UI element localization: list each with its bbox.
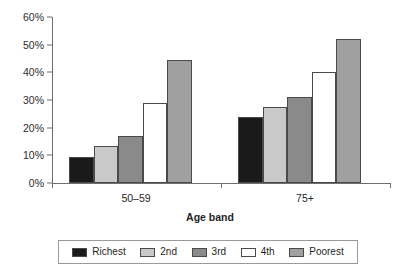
y-tick-label: 40% [8,67,44,78]
x-tick-mark [390,183,391,188]
legend-swatch-richest [72,248,87,257]
legend-label: Poorest [309,247,343,257]
legend-label: Richest [92,247,125,257]
y-tick-label: 60% [8,12,44,23]
y-tick-label: 20% [8,122,44,133]
legend-label: 3rd [212,247,226,257]
x-tick-mark [52,183,53,188]
bars-layer [52,17,390,183]
bar-75+-poorest [336,39,361,183]
plot-area: 0% 10% 20% 30% 40% 50% 60% 50–59 75+ [0,0,420,232]
y-axis-tick-labels: 0% 10% 20% 30% 40% 50% 60% [8,0,44,232]
x-tick-mark [221,183,222,188]
legend-swatch-2nd [140,248,155,257]
y-tick-label: 30% [8,95,44,106]
bar-50-59-3rd [118,136,143,183]
bar-50-59-poorest [167,60,192,183]
legend-swatch-3rd [192,248,207,257]
legend-swatch-poorest [289,248,304,257]
legend-item-4th[interactable]: 4th [241,247,275,257]
legend: Richest2nd3rd4thPoorest [58,240,358,264]
x-group-label-1: 75+ [296,192,314,204]
x-axis-title: Age band [0,211,420,223]
legend-swatch-4th [241,248,256,257]
bar-75+-2nd [263,107,288,183]
legend-label: 4th [261,247,275,257]
legend-item-richest[interactable]: Richest [72,247,125,257]
bar-75+-4th [312,72,337,183]
bar-75+-richest [238,117,263,183]
y-tick-label: 10% [8,150,44,161]
y-tick-label: 0% [8,178,44,189]
x-group-label-0: 50–59 [121,192,150,204]
y-tick-label: 50% [8,39,44,50]
bar-50-59-4th [143,103,168,183]
bar-50-59-richest [69,157,94,183]
bar-50-59-2nd [94,146,119,183]
legend-label: 2nd [160,247,177,257]
bar-75+-3rd [287,97,312,183]
legend-item-2nd[interactable]: 2nd [140,247,177,257]
legend-item-poorest[interactable]: Poorest [289,247,343,257]
grouped-bar-chart: 0% 10% 20% 30% 40% 50% 60% 50–59 75+ [0,0,420,276]
legend-item-3rd[interactable]: 3rd [192,247,226,257]
